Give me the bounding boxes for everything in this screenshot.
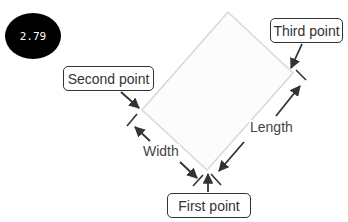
value-badge: 2.79	[5, 13, 61, 59]
diagram-canvas: 2.79 Second point Third point First poin…	[0, 0, 348, 222]
second-point-callout: Second point	[63, 66, 154, 91]
first-point-callout: First point	[167, 193, 251, 218]
value-badge-text: 2.79	[20, 30, 47, 43]
third-point-callout: Third point	[270, 18, 343, 43]
length-label: Length	[249, 120, 294, 134]
first-point-label: First point	[178, 199, 239, 213]
second-point-label: Second point	[68, 72, 150, 86]
width-label: Width	[142, 144, 180, 158]
third-point-label: Third point	[273, 24, 339, 38]
